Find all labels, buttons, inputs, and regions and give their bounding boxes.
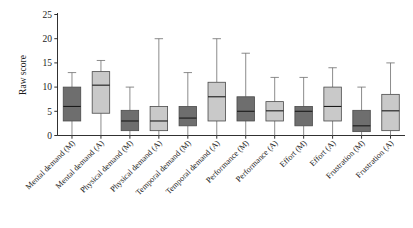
- box-rect: [179, 106, 197, 125]
- box-rect: [353, 110, 371, 131]
- box-rect: [237, 97, 255, 121]
- y-axis-title: Raw score: [18, 55, 28, 95]
- y-axis-tick-label: 20: [43, 34, 53, 44]
- box-rect: [295, 106, 313, 125]
- chart-canvas: 0510152025 Raw score Mental demand (M)Me…: [0, 0, 413, 228]
- box-rect: [382, 94, 400, 130]
- box-rect: [63, 87, 81, 121]
- y-axis-tick-label: 25: [43, 10, 53, 20]
- y-axis-tick-label: 15: [43, 58, 53, 68]
- box-plot-figure: 0510152025 Raw score Mental demand (M)Me…: [0, 0, 413, 228]
- chart-background: [0, 0, 413, 228]
- y-axis-tick-label: 0: [47, 131, 52, 141]
- box-rect: [324, 87, 342, 121]
- box-rect: [92, 72, 110, 114]
- y-axis-tick-label: 5: [47, 107, 52, 117]
- box-rect: [208, 82, 226, 121]
- y-axis-tick-label: 10: [43, 82, 53, 92]
- box-rect: [150, 106, 168, 130]
- y-axis-title-text: Raw score: [18, 55, 28, 95]
